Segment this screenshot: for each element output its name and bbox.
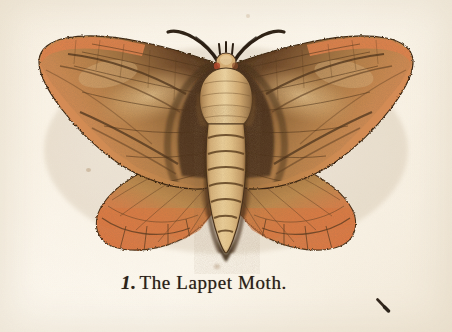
abdomen [200, 120, 254, 262]
antique-plate-lappet-moth: 1.The Lappet Moth. [0, 0, 452, 332]
caption-title: The Lappet Moth. [140, 272, 287, 293]
caption-number: 1. [121, 272, 139, 293]
stray-ink-stroke [376, 298, 391, 313]
plate-caption: 1.The Lappet Moth. [0, 272, 452, 294]
thorax [196, 66, 256, 128]
lappet-moth-illustration [0, 0, 452, 280]
